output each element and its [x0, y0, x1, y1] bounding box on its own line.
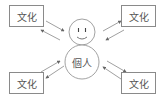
- culture-label: 文化: [17, 9, 37, 24]
- culture-label: 文化: [129, 9, 149, 24]
- culture-box-top-right: 文化: [121, 5, 156, 27]
- culture-box-top-left: 文化: [9, 5, 44, 27]
- culture-box-bottom-left: 文化: [9, 72, 44, 94]
- individual-label: 個人: [65, 55, 99, 70]
- smiley-head-icon: [69, 19, 95, 45]
- arrow-pair-bottom-left: [41, 61, 64, 78]
- arrow-pair-top-left: [41, 21, 64, 40]
- culture-box-bottom-right: 文化: [121, 72, 156, 94]
- culture-label: 文化: [129, 76, 149, 91]
- culture-label: 文化: [17, 76, 37, 91]
